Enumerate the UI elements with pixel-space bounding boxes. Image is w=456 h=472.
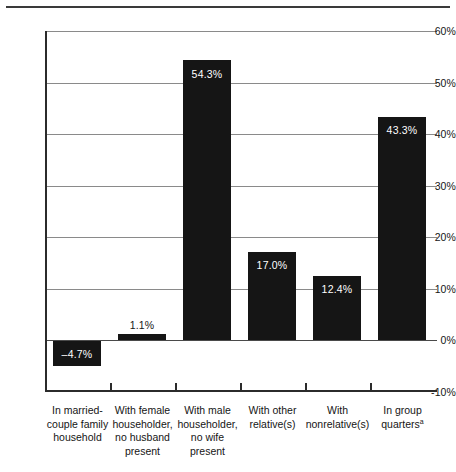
x-tick-2 bbox=[175, 383, 177, 392]
x-category-line: householder, bbox=[110, 418, 175, 432]
x-category-line: In married- bbox=[45, 404, 110, 418]
y-tick-label-neg10: -10% bbox=[414, 386, 456, 398]
x-tick-4 bbox=[305, 383, 307, 392]
x-category-line: With female bbox=[110, 404, 175, 418]
x-category-line: quarters bbox=[381, 418, 420, 430]
bar-value-label-5: 12.4% bbox=[313, 283, 361, 295]
x-category-label-3: With male householder, no wife present bbox=[173, 404, 242, 458]
bar-value-label-2: 1.1% bbox=[118, 319, 166, 331]
x-category-line: With bbox=[303, 404, 372, 418]
x-category-line: In group bbox=[370, 404, 435, 418]
x-category-label-2: With female householder, no husband pres… bbox=[110, 404, 175, 458]
bar-value-label-1: –4.7% bbox=[53, 348, 101, 360]
bar-chart: 60% 50% 40% 30% 20% 10% 0% -10% –4.7% 1.… bbox=[0, 0, 456, 472]
x-category-line: relative(s) bbox=[240, 418, 305, 432]
x-category-line: household bbox=[45, 431, 110, 445]
y-tick-label-60: 60% bbox=[414, 25, 456, 37]
x-category-line-with-superscript: quartersa bbox=[370, 418, 435, 432]
x-tick-1 bbox=[110, 383, 112, 392]
x-tick-3 bbox=[240, 383, 242, 392]
x-tick-5 bbox=[370, 383, 372, 392]
x-category-label-6: In group quartersa bbox=[370, 404, 435, 431]
x-category-line: householder, bbox=[173, 418, 242, 432]
x-category-line: With other bbox=[240, 404, 305, 418]
x-category-line: present bbox=[110, 445, 175, 459]
footnote-marker: a bbox=[420, 417, 424, 424]
x-category-line: couple family bbox=[45, 418, 110, 432]
y-tick-label-50: 50% bbox=[414, 77, 456, 89]
bar-in-group-quarters bbox=[378, 117, 426, 340]
x-category-line: With male bbox=[173, 404, 242, 418]
bar-value-label-4: 17.0% bbox=[248, 259, 296, 271]
x-category-label-4: With other relative(s) bbox=[240, 404, 305, 431]
x-category-line: no wife present bbox=[173, 431, 242, 458]
x-category-label-5: With nonrelative(s) bbox=[303, 404, 372, 431]
x-category-line: nonrelative(s) bbox=[303, 418, 372, 432]
bar-with-male-householder bbox=[183, 60, 231, 340]
bar-value-label-3: 54.3% bbox=[183, 68, 231, 80]
bar-with-female-householder bbox=[118, 334, 166, 340]
x-category-line: no husband bbox=[110, 431, 175, 445]
x-category-label-1: In married- couple family household bbox=[45, 404, 110, 445]
bar-value-label-6: 43.3% bbox=[378, 124, 426, 136]
